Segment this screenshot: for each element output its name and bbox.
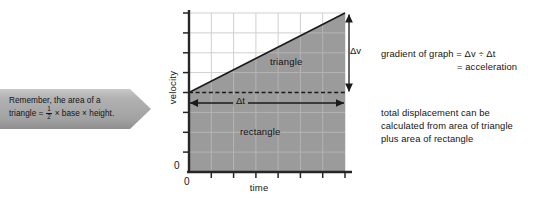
delta-v-label: Δv — [350, 45, 361, 56]
displacement-note-line-3: plus area of rectangle — [381, 132, 513, 145]
displacement-note: total displacement can be calculated fro… — [381, 106, 513, 145]
gradient-note-line-1: gradient of graph = Δv ÷ Δt — [381, 47, 517, 60]
rectangle-region-label: rectangle — [240, 126, 280, 137]
one-half-fraction: 1 2 — [46, 106, 52, 120]
displacement-note-line-2: calculated from area of triangle — [381, 119, 513, 132]
delta-t-label: Δt — [233, 95, 248, 106]
callout-line-2-post: × base × height. — [55, 109, 115, 118]
y-axis-label: velocity — [167, 58, 178, 118]
gradient-note-line-2: = acceleration — [381, 60, 517, 73]
callout-line-1: Remember, the area of a — [9, 96, 101, 105]
chart-plot-area — [160, 0, 365, 206]
callout-line-2-pre: triangle = — [9, 109, 43, 118]
velocity-time-chart: velocity time 0 0 triangle rectangle Δv … — [160, 0, 365, 206]
callout-text: Remember, the area of a triangle = 1 2 ×… — [9, 95, 133, 121]
x-axis-label: time — [204, 182, 314, 193]
y-axis-origin-label: 0 — [174, 160, 180, 171]
x-axis-origin-label: 0 — [184, 176, 190, 187]
remember-callout: Remember, the area of a triangle = 1 2 ×… — [0, 87, 152, 131]
fraction-denominator: 2 — [46, 114, 52, 121]
diagram-canvas: Remember, the area of a triangle = 1 2 ×… — [0, 0, 552, 206]
triangle-region-label: triangle — [270, 56, 302, 67]
gradient-note: gradient of graph = Δv ÷ Δt = accelerati… — [381, 47, 517, 73]
displacement-note-line-1: total displacement can be — [381, 106, 513, 119]
